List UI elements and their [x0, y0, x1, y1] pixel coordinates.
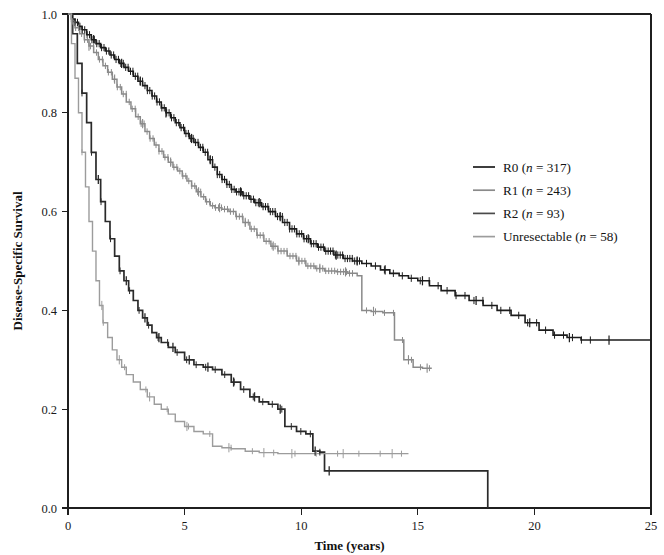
y-axis-tick-label: 0.0	[41, 502, 57, 516]
censor-layer	[73, 15, 609, 475]
legend-label-0: R0 (n = 317)	[503, 160, 571, 175]
y-axis-title: Disease-Specific Survival	[10, 191, 25, 330]
y-axis-tick-label: 0.8	[41, 106, 57, 120]
survival-curve-r2	[68, 14, 488, 508]
x-axis-tick-label: 25	[645, 519, 658, 533]
x-axis-tick-label: 10	[295, 519, 308, 533]
survival-chart-canvas: R0 (n = 317)R1 (n = 243)R2 (n = 93)Unres…	[0, 0, 664, 555]
x-axis-tick-label: 15	[412, 519, 425, 533]
x-axis-tick-label: 0	[65, 519, 71, 533]
y-axis-tick-label: 0.2	[41, 403, 57, 417]
legend-label-1: R1 (n = 243)	[503, 183, 571, 198]
x-axis-title: Time (years)	[314, 538, 384, 553]
x-axis-tick-label: 5	[181, 519, 187, 533]
legend-layer: R0 (n = 317)R1 (n = 243)R2 (n = 93)Unres…	[473, 160, 618, 245]
x-axis-tick-label: 20	[528, 519, 541, 533]
legend-label-2: R2 (n = 93)	[503, 206, 564, 221]
survival-curve-r1	[68, 14, 432, 368]
y-axis-tick-label: 0.4	[41, 304, 57, 318]
y-axis-tick-label: 0.6	[41, 205, 57, 219]
legend-label-3: Unresectable (n = 58)	[503, 229, 618, 244]
kaplan-meier-figure: R0 (n = 317)R1 (n = 243)R2 (n = 93)Unres…	[0, 0, 664, 555]
survival-curve-unresectable	[68, 14, 408, 454]
y-axis-tick-label: 1.0	[41, 8, 57, 22]
axis-layer	[62, 14, 651, 515]
survival-curve-r0	[68, 14, 651, 340]
